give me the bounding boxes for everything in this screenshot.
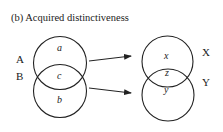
region-x-label: x — [163, 50, 169, 61]
arrow-a-to-x — [89, 56, 131, 61]
acquired-distinctiveness-diagram: (b) Acquired distinctiveness A B a c b X… — [0, 0, 223, 132]
set-x-circle — [142, 36, 193, 87]
set-y-label: Y — [202, 76, 210, 88]
region-z-label: z — [164, 67, 169, 78]
set-b-label: B — [16, 70, 23, 82]
region-b-label: b — [57, 94, 62, 105]
arrow-b-to-y — [89, 88, 131, 93]
set-x-label: X — [202, 46, 210, 58]
region-a-label: a — [57, 42, 62, 53]
region-c-label: c — [57, 70, 62, 81]
set-a-label: A — [16, 53, 24, 65]
region-y-label: y — [163, 84, 169, 95]
figure-title: (b) Acquired distinctiveness — [11, 12, 129, 24]
